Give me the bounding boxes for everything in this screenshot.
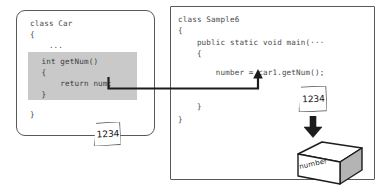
car-line-return-num: return num; (32, 78, 112, 89)
sample-line-main-signature: public static void main(··· (178, 37, 324, 48)
car-line-open-brace: { (30, 29, 35, 40)
car-line-close-brace: } (30, 109, 35, 120)
sample-line-class-decl: class Sample6 (178, 14, 239, 25)
sample-line-assignment: number = car1.getNum(); (178, 67, 324, 78)
diagram-canvas: class Car { ... int getNum() { return nu… (0, 0, 385, 195)
assign-down-arrow (303, 116, 323, 138)
sample-line-open-brace: { (178, 25, 183, 36)
sample-line-main-close-brace: } (178, 101, 202, 112)
car-line-ellipsis: ... (30, 40, 63, 51)
sample-line-class-close-brace: } (178, 114, 183, 125)
car-line-method-open-brace: { (32, 67, 46, 78)
car-line-method-close-brace: } (32, 89, 46, 100)
car-line-method-signature: int getNum() (32, 56, 98, 67)
sample-line-main-open-brace: { (178, 48, 202, 59)
value-note-right: 1234 (298, 86, 328, 113)
value-note-left: 1234 (92, 121, 121, 146)
car-line-class-decl: class Car (30, 18, 73, 29)
